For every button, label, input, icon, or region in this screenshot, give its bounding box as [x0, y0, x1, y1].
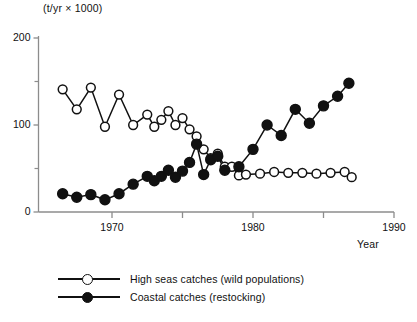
y-axis-tick-label: 100 — [1, 118, 31, 130]
chart-figure: (t/yr × 1000) Year 0100200197019801990 H… — [0, 0, 417, 322]
y-axis-tick-label: 0 — [1, 205, 31, 217]
data-point-open-circle — [150, 122, 159, 131]
data-point-open-circle — [312, 169, 321, 178]
y-axis-tick-label: 200 — [1, 31, 31, 43]
legend-key-open-circle — [58, 272, 120, 286]
data-point-open-circle — [284, 168, 293, 177]
data-point-filled-circle — [192, 139, 202, 149]
series-line-1 — [63, 83, 349, 200]
data-point-open-circle — [157, 115, 166, 124]
data-point-filled-circle — [86, 190, 96, 200]
legend-key-filled-circle — [58, 290, 120, 304]
data-point-open-circle — [171, 121, 180, 130]
chart-legend: High seas catches (wild populations) Coa… — [58, 270, 378, 306]
data-point-open-circle — [143, 110, 152, 119]
data-point-open-circle — [326, 168, 335, 177]
data-point-open-circle — [178, 114, 187, 123]
data-point-filled-circle — [220, 165, 230, 175]
data-point-open-circle — [115, 90, 124, 99]
data-point-open-circle — [256, 169, 265, 178]
legend-label-high-seas: High seas catches (wild populations) — [120, 273, 304, 285]
data-point-open-circle — [101, 122, 110, 131]
data-point-open-circle — [86, 83, 95, 92]
data-point-open-circle — [72, 105, 81, 114]
data-point-open-circle — [298, 168, 307, 177]
data-point-filled-circle — [114, 189, 124, 199]
data-point-filled-circle — [344, 78, 354, 88]
data-point-filled-circle — [276, 130, 286, 140]
filled-circle-icon — [82, 292, 93, 303]
data-point-open-circle — [242, 170, 251, 179]
open-circle-icon — [82, 274, 93, 285]
data-point-open-circle — [58, 85, 67, 94]
legend-item-high-seas: High seas catches (wild populations) — [58, 270, 378, 288]
data-point-open-circle — [347, 173, 356, 182]
data-point-filled-circle — [178, 166, 188, 176]
data-point-filled-circle — [100, 195, 110, 205]
data-point-filled-circle — [58, 189, 68, 199]
data-point-filled-circle — [234, 162, 244, 172]
data-point-filled-circle — [213, 151, 223, 161]
data-point-filled-circle — [128, 179, 138, 189]
data-point-open-circle — [185, 125, 194, 134]
data-point-filled-circle — [319, 101, 329, 111]
data-point-filled-circle — [72, 192, 82, 202]
data-point-open-circle — [164, 107, 173, 116]
data-point-filled-circle — [248, 144, 258, 154]
x-axis-tick-label: 1970 — [87, 221, 137, 233]
data-point-open-circle — [129, 121, 138, 130]
data-point-filled-circle — [290, 104, 300, 114]
data-point-filled-circle — [333, 91, 343, 101]
data-point-open-circle — [270, 168, 279, 177]
x-axis-tick-label: 1980 — [228, 221, 278, 233]
data-point-filled-circle — [199, 170, 209, 180]
data-point-filled-circle — [304, 118, 314, 128]
data-point-filled-circle — [185, 157, 195, 167]
legend-item-coastal: Coastal catches (restocking) — [58, 288, 378, 306]
legend-label-coastal: Coastal catches (restocking) — [120, 291, 265, 303]
x-axis-tick-label: 1990 — [369, 221, 417, 233]
data-point-filled-circle — [262, 120, 272, 130]
